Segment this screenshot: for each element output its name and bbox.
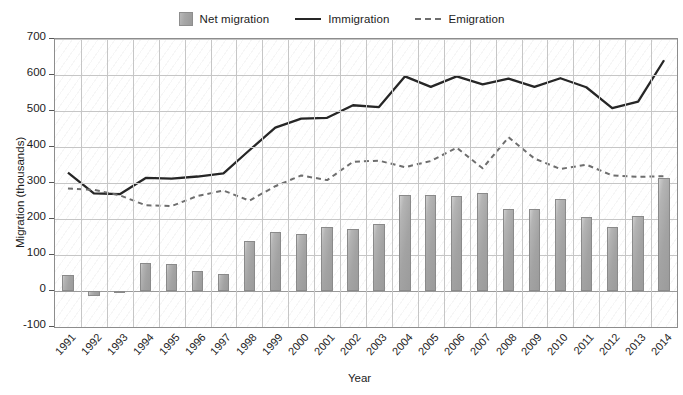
y-axis-tick-200: 200	[0, 210, 46, 222]
bar-net-migration-2000	[296, 234, 307, 291]
gridline-x-2002	[340, 39, 341, 327]
gridline-x-2005	[418, 39, 419, 327]
legend-label-immigration: Immigration	[328, 13, 389, 25]
bar-net-migration-1998	[244, 241, 255, 291]
y-axis-tick-100: 100	[0, 246, 46, 258]
y-axis-tickmark--100	[49, 326, 54, 327]
gridline-x-2007	[470, 39, 471, 327]
bar-net-migration-2001	[321, 227, 332, 291]
legend-label-net-migration: Net migration	[200, 13, 270, 25]
bar-net-migration-2008	[503, 209, 514, 291]
chart-legend: Net migration Immigration Emigration	[0, 8, 683, 30]
bar-net-migration-2002	[347, 229, 358, 291]
y-axis-tickmark-100	[49, 254, 54, 255]
y-axis-tickmark-400	[49, 146, 54, 147]
legend-item-immigration: Immigration	[295, 13, 389, 25]
bar-net-migration-2007	[477, 193, 488, 291]
gridline-x-1992	[81, 39, 82, 327]
plot-area	[54, 38, 678, 328]
gridline-y--100	[55, 327, 677, 328]
chart-figure: Net migration Immigration Emigration Mig…	[0, 0, 683, 395]
gridline-x-2012	[599, 39, 600, 327]
gridline-x-2013	[625, 39, 626, 327]
gridline-x-2001	[314, 39, 315, 327]
y-axis-tick-500: 500	[0, 102, 46, 114]
bar-net-migration-2003	[373, 224, 384, 291]
gridline-x-2008	[496, 39, 497, 327]
gridline-x-2000	[288, 39, 289, 327]
bar-net-migration-1993	[114, 291, 125, 293]
y-axis-tick-700: 700	[0, 30, 46, 42]
bar-net-migration-2006	[451, 196, 462, 291]
gridline-x-1999	[262, 39, 263, 327]
legend-label-emigration: Emigration	[448, 13, 504, 25]
bar-net-migration-1995	[166, 264, 177, 291]
bar-swatch-icon	[179, 12, 193, 26]
bar-net-migration-1999	[270, 232, 281, 291]
bar-net-migration-1996	[192, 271, 203, 291]
bar-net-migration-1994	[140, 263, 151, 291]
legend-item-emigration: Emigration	[415, 13, 504, 25]
gridline-x-2011	[573, 39, 574, 327]
bar-net-migration-2004	[399, 195, 410, 291]
bar-net-migration-2014	[658, 178, 669, 291]
solid-line-icon	[295, 18, 321, 20]
gridline-x-1995	[159, 39, 160, 327]
gridline-x-2014	[651, 39, 652, 327]
y-axis-tickmark-200	[49, 218, 54, 219]
y-axis-tickmark-500	[49, 110, 54, 111]
y-axis-tick--100: -100	[0, 318, 46, 330]
gridline-x-2010	[547, 39, 548, 327]
bar-net-migration-2005	[425, 195, 436, 291]
y-axis-tick-600: 600	[0, 66, 46, 78]
x-axis-label: Year	[0, 372, 683, 384]
y-axis-tick-300: 300	[0, 174, 46, 186]
legend-item-net-migration: Net migration	[179, 12, 270, 26]
bar-net-migration-1997	[218, 274, 229, 291]
y-axis-tickmark-0	[49, 290, 54, 291]
y-axis-tickmark-300	[49, 182, 54, 183]
y-axis-label: Migration (thousands)	[14, 137, 26, 248]
bar-net-migration-2010	[555, 199, 566, 291]
y-axis-tickmark-600	[49, 74, 54, 75]
bar-net-migration-1992	[88, 291, 99, 296]
y-axis-tick-0: 0	[0, 282, 46, 294]
bar-net-migration-2009	[529, 209, 540, 291]
gridline-x-2009	[522, 39, 523, 327]
bar-net-migration-2012	[607, 227, 618, 291]
x-axis-label-text: Year	[348, 372, 371, 384]
gridline-x-1996	[185, 39, 186, 327]
gridline-x-2003	[366, 39, 367, 327]
dashed-line-icon	[415, 18, 441, 20]
y-axis-tickmark-700	[49, 38, 54, 39]
bar-net-migration-2011	[581, 217, 592, 291]
gridline-x-1994	[133, 39, 134, 327]
gridline-x-2006	[444, 39, 445, 327]
gridline-x-1998	[236, 39, 237, 327]
gridline-x-2004	[392, 39, 393, 327]
gridline-x-1997	[211, 39, 212, 327]
y-axis-tick-400: 400	[0, 138, 46, 150]
bar-net-migration-1991	[62, 275, 73, 291]
bar-net-migration-2013	[632, 216, 643, 291]
gridline-x-1993	[107, 39, 108, 327]
